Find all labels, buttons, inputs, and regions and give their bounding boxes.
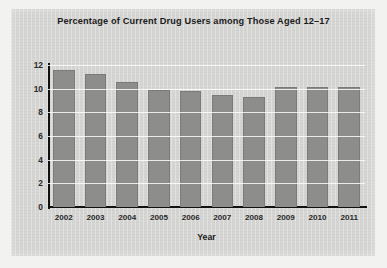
x-tick-label: 2011 bbox=[340, 213, 358, 222]
gridline bbox=[48, 89, 365, 90]
chart-figure: Percentage of Current Drug Users among T… bbox=[0, 0, 387, 268]
gridline bbox=[48, 183, 365, 184]
gridline bbox=[48, 136, 365, 137]
x-tick-label: 2010 bbox=[308, 213, 326, 222]
chart-title: Percentage of Current Drug Users among T… bbox=[0, 16, 387, 26]
x-tick-label: 2008 bbox=[245, 213, 263, 222]
bar bbox=[180, 91, 202, 207]
y-tick-label: 2 bbox=[38, 178, 43, 188]
y-tick-label: 6 bbox=[38, 131, 43, 141]
bar bbox=[148, 90, 170, 207]
gridline bbox=[48, 112, 365, 113]
x-tick-label: 2002 bbox=[55, 213, 73, 222]
x-tick-label: 2004 bbox=[118, 213, 136, 222]
bar bbox=[275, 87, 297, 207]
bar bbox=[307, 87, 329, 207]
y-tick-label: 12 bbox=[34, 60, 43, 70]
bar bbox=[338, 87, 360, 207]
x-tick-label: 2003 bbox=[87, 213, 105, 222]
y-tick-label: 0 bbox=[38, 202, 43, 212]
plot-area: 024681012 200220032004200520062007200820… bbox=[48, 65, 365, 207]
x-tick-label: 2005 bbox=[150, 213, 168, 222]
y-tick-label: 8 bbox=[38, 107, 43, 117]
x-tick-label: 2007 bbox=[213, 213, 231, 222]
bar bbox=[53, 70, 75, 207]
x-tick-label: 2006 bbox=[182, 213, 200, 222]
x-tick-label: 2009 bbox=[277, 213, 295, 222]
y-tick-label: 10 bbox=[34, 84, 43, 94]
x-axis-title: Year bbox=[48, 232, 365, 242]
gridline bbox=[48, 160, 365, 161]
bar bbox=[243, 97, 265, 207]
y-tick-label: 4 bbox=[38, 155, 43, 165]
gridline bbox=[48, 65, 365, 66]
bar bbox=[85, 74, 107, 207]
bar bbox=[116, 82, 138, 207]
